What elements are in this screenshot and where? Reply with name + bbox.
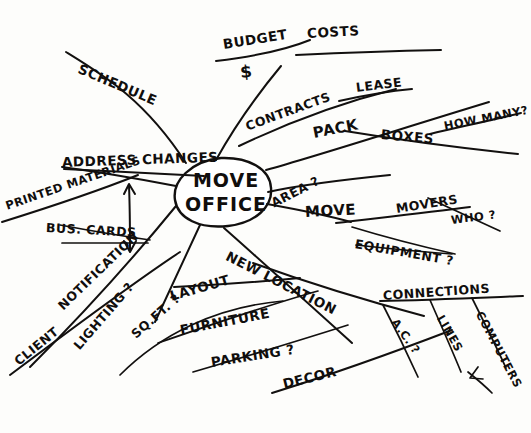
- label-move[interactable]: MOVE: [305, 200, 357, 221]
- label-costs[interactable]: COSTS: [307, 22, 360, 41]
- label-money-symbol: $: [239, 61, 253, 82]
- branch-line-costs: [296, 50, 441, 55]
- branch-line-connections-arrow: [470, 367, 483, 379]
- center-topic-line1: MOVE: [186, 169, 266, 191]
- center-topic-line2: OFFICE: [184, 193, 268, 215]
- mind-map-canvas: MOVE OFFICE BUDGET COSTS $ SCHEDULE CONT…: [0, 0, 531, 433]
